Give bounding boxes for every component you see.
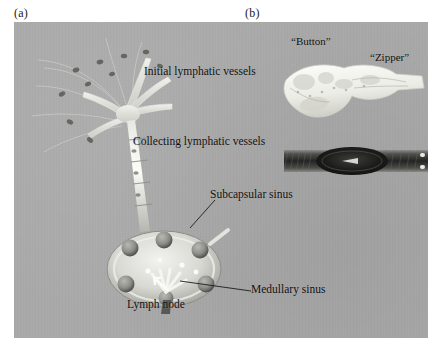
collecting-vessel-cross-section xyxy=(284,147,428,175)
leader-subcapsular-sinus xyxy=(190,200,215,228)
label-lymph-node: Lymph node xyxy=(127,298,185,310)
label-zipper: “Zipper” xyxy=(370,51,409,63)
label-initial-lymphatic-vessels: Initial lymphatic vessels xyxy=(144,65,256,77)
label-button: “Button” xyxy=(291,35,331,47)
panel-label-a: (a) xyxy=(14,6,28,21)
panel-label-b: (b) xyxy=(245,6,260,21)
figure-plate: Initial lymphatic vessels Collecting lym… xyxy=(14,22,428,338)
label-collecting-lymphatic-vessels: Collecting lymphatic vessels xyxy=(133,135,265,147)
label-subcapsular-sinus: Subcapsular sinus xyxy=(210,188,293,200)
button-zipper-structure xyxy=(284,65,424,117)
label-medullary-sinus: Medullary sinus xyxy=(251,283,325,295)
